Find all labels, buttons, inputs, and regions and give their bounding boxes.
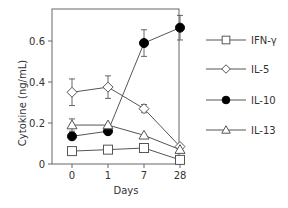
x-tick-label: 0 (69, 170, 75, 181)
y-axis-label: Cytokine (ng/mL) (17, 60, 28, 146)
square-marker-icon (140, 144, 149, 153)
legend-label: IL-10 (251, 95, 276, 106)
x-tick-label: 7 (141, 170, 147, 181)
cytokine-line-chart: 00.20.40.6 01728 Cytokine (ng/mL) Days I… (0, 0, 288, 208)
series-line (72, 125, 180, 150)
legend-item: IL-5 (206, 64, 269, 75)
legend-item: IFN-γ (206, 35, 277, 46)
y-tick-label: 0.2 (29, 118, 45, 129)
square-marker-icon (176, 155, 185, 164)
triangle-marker-icon (67, 120, 77, 129)
x-axis: 01728 (69, 164, 187, 181)
legend: IFN-γIL-5IL-10IL-13 (206, 35, 277, 136)
legend-label: IL-13 (251, 125, 276, 136)
circle-marker-icon (176, 23, 185, 32)
y-axis: 00.20.40.6 (29, 36, 52, 170)
series-ifn- (68, 144, 185, 165)
diamond-marker-icon (67, 87, 77, 97)
triangle-marker-icon (222, 126, 231, 133)
square-marker-icon (222, 36, 230, 44)
series-line (72, 148, 180, 160)
legend-label: IFN-γ (251, 35, 277, 46)
square-marker-icon (68, 147, 77, 156)
legend-label: IL-5 (251, 64, 269, 75)
legend-item: IL-13 (206, 125, 276, 136)
series-line (72, 28, 180, 137)
x-axis-label: Days (114, 185, 139, 196)
legend-item: IL-10 (206, 95, 276, 106)
series-il-10 (68, 15, 185, 140)
square-marker-icon (104, 145, 113, 154)
circle-marker-icon (68, 132, 77, 141)
diamond-marker-icon (103, 82, 113, 92)
y-tick-label: 0.6 (29, 36, 45, 47)
diamond-marker-icon (222, 65, 231, 74)
x-tick-label: 1 (105, 170, 111, 181)
series-il-13 (67, 119, 185, 153)
y-tick-label: 0 (39, 159, 45, 170)
x-tick-label: 28 (174, 170, 187, 181)
circle-marker-icon (222, 96, 230, 104)
series-line (72, 87, 180, 146)
circle-marker-icon (140, 39, 149, 48)
data-series (67, 15, 185, 164)
y-tick-label: 0.4 (29, 77, 45, 88)
